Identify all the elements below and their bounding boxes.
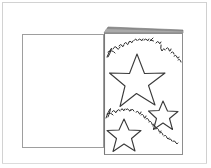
card-illustration: [0, 0, 211, 168]
card-fold-wedge: [104, 27, 183, 33]
drawing-canvas: Open greeting card with hand-drawn stars…: [0, 0, 211, 168]
card-left-panel: [23, 35, 104, 148]
card-right-panel: [105, 34, 183, 155]
